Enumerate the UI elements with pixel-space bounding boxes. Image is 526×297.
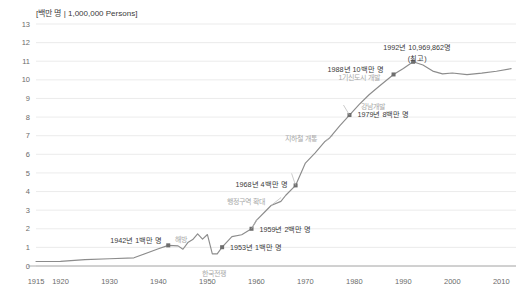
ann-subway: 지하철 개통 [285,134,318,143]
x-tick-2000: 2000 [444,277,461,286]
ann-peak-sub: (최고) [408,54,427,63]
leader-ann-1979 [343,105,349,115]
x-tick-1915: 1915 [28,277,45,286]
marker-ann-1953 [220,245,224,249]
y-tick-9: 9 [26,94,30,103]
y-tick-2: 2 [26,224,30,233]
marker-ann-1988 [392,72,396,76]
y-tick-5: 5 [26,169,30,178]
ann-gangnam: 강남개발 [361,102,386,111]
y-tick-12: 12 [22,38,30,47]
x-tick-1940: 1940 [150,277,167,286]
y-tick-8: 8 [26,113,30,122]
ann-newtown: 1기신도시 개발 [339,73,382,82]
y-tick-11: 11 [22,57,30,66]
ann-1953: 1953년 1백만 명 [230,243,282,252]
chart-unit-title: [백만 명 | 1,000,000 Persons] [36,8,137,18]
x-tick-1930: 1930 [101,277,118,286]
y-tick-6: 6 [26,150,30,159]
ann-1942: 1942년 1백만 명 [110,236,162,245]
y-tick-4: 4 [26,187,30,196]
ann-liberation: 해방 [175,235,188,244]
x-tick-1970: 1970 [297,277,314,286]
x-tick-2010: 2010 [493,277,510,286]
marker-ann-1942 [166,243,170,247]
x-tick-1990: 1990 [395,277,412,286]
ann-peak: 1992년 10,969,862명 [383,43,451,52]
ann-district: 행정구역 확대 [227,197,265,206]
ann-1979: 1979년 8백만 명 [357,110,409,119]
x-tick-1960: 1960 [248,277,265,286]
x-tick-1980: 1980 [346,277,363,286]
x-tick-1950: 1950 [199,277,216,286]
ann-1968: 1968년 4백만 명 [236,180,288,189]
annotation-labels: 1942년 1백만 명해방1953년 1백만 명한국전쟁1959년 2백만 명행… [110,43,451,278]
ann-1988: 1988년 10백만 명 [328,65,384,74]
chart-canvas: 012345678910111213 191519201930194019501… [0,0,526,297]
y-tick-10: 10 [22,75,30,84]
ann-korean-war: 한국전쟁 [202,269,226,278]
y-tick-7: 7 [26,131,30,140]
y-axis-tick-labels: 012345678910111213 [22,20,30,271]
leader-ann-1959 [252,219,258,229]
x-axis-tick-labels: 1915192019301940195019601970198019902000… [28,277,510,286]
y-tick-13: 13 [22,20,30,29]
leader-ann-subway [325,135,333,141]
x-tick-1920: 1920 [52,277,69,286]
y-tick-1: 1 [26,243,30,252]
population-line-chart: 012345678910111213 191519201930194019501… [0,0,526,297]
ann-1959: 1959년 2백만 명 [260,225,312,234]
y-tick-3: 3 [26,206,30,215]
